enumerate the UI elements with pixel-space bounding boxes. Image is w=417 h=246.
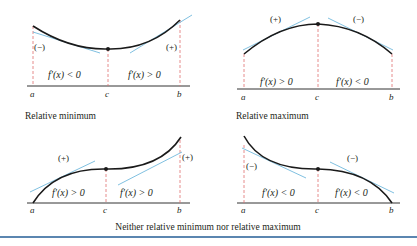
- tick-c: c: [105, 89, 109, 99]
- caption: Relative minimum: [25, 111, 97, 121]
- tick-a: a: [241, 205, 246, 215]
- extrema-diagram: (−) (+) f′(x) < 0 f′(x) > 0 a c b Relati…: [0, 0, 417, 246]
- tick-a: a: [30, 89, 35, 99]
- bottom-rule: [0, 236, 417, 238]
- tick-c: c: [315, 205, 319, 215]
- left-sign: (−): [246, 161, 257, 171]
- right-sign: (+): [182, 152, 193, 162]
- panel-neither-decreasing: (−) (−) f′(x) < 0 f′(x) < 0 a c b: [237, 136, 400, 215]
- panel-relative-minimum: (−) (+) f′(x) < 0 f′(x) > 0 a c b Relati…: [25, 15, 192, 121]
- panel-relative-maximum: (+) (−) f′(x) > 0 f′(x) < 0 a c b Relati…: [236, 14, 400, 121]
- critical-point: [106, 47, 110, 51]
- right-derivative: f′(x) > 0: [120, 187, 153, 199]
- panel-neither-increasing: (+) (+) f′(x) > 0 f′(x) > 0 a c b: [27, 137, 193, 215]
- left-derivative: f′(x) < 0: [48, 69, 81, 81]
- right-sign: (−): [353, 14, 364, 24]
- tick-b: b: [177, 205, 182, 215]
- tangent-right: [130, 15, 192, 53]
- right-sign: (−): [347, 153, 358, 163]
- right-sign: (+): [166, 42, 177, 52]
- critical-point: [104, 167, 108, 171]
- tick-b: b: [177, 89, 182, 99]
- bottom-caption: Neither relative minimum nor relative ma…: [115, 222, 301, 232]
- right-derivative: f′(x) < 0: [336, 76, 369, 88]
- left-sign: (−): [34, 42, 45, 52]
- left-sign: (+): [58, 153, 69, 163]
- critical-point: [316, 22, 320, 26]
- right-derivative: f′(x) < 0: [335, 187, 368, 199]
- tick-c: c: [315, 92, 319, 102]
- tick-b: b: [389, 92, 394, 102]
- right-derivative: f′(x) > 0: [128, 69, 161, 81]
- left-sign: (+): [270, 14, 281, 24]
- tick-a: a: [30, 205, 35, 215]
- left-derivative: f′(x) > 0: [260, 76, 293, 88]
- critical-point: [316, 167, 320, 171]
- tick-c: c: [103, 205, 107, 215]
- caption: Relative maximum: [236, 111, 309, 121]
- left-derivative: f′(x) < 0: [262, 187, 295, 199]
- tick-b: b: [389, 205, 394, 215]
- left-derivative: f′(x) > 0: [52, 187, 85, 199]
- tick-a: a: [241, 92, 246, 102]
- curve: [33, 20, 180, 49]
